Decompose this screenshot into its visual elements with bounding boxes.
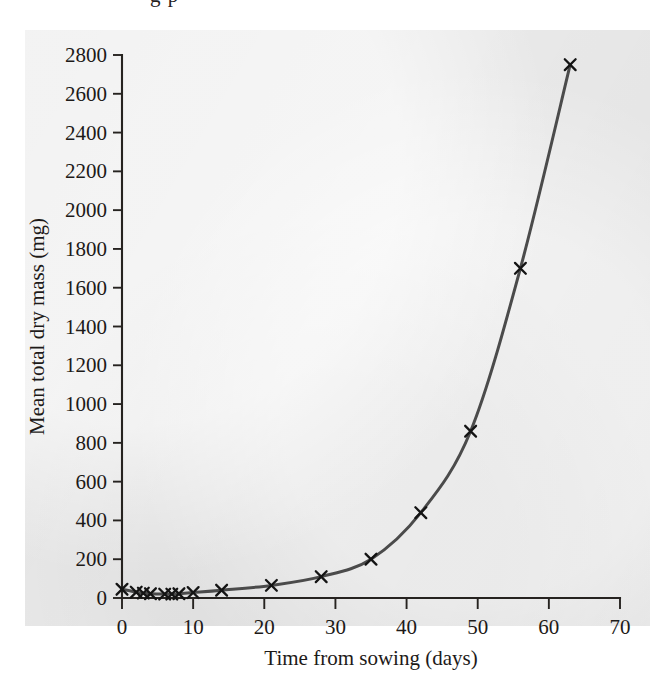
data-markers-group	[117, 59, 576, 599]
y-axis-tick-label: 2800	[65, 43, 107, 67]
y-axis-tick-label: 200	[76, 547, 108, 571]
chart-svg: 0200400600800100012001400160018002000220…	[0, 0, 650, 685]
data-curve	[122, 65, 570, 594]
y-axis-tick-label: 2400	[65, 121, 107, 145]
x-axis-tick-label: 30	[325, 615, 346, 639]
y-axis-tick-label: 1400	[65, 315, 107, 339]
x-axis-tick-label: 60	[538, 615, 559, 639]
axes-group	[113, 55, 620, 609]
x-axis-tick-label: 40	[396, 615, 417, 639]
x-axis-tick-label: 10	[183, 615, 204, 639]
y-axis-tick-label: 2600	[65, 82, 107, 106]
x-axis-tick-label: 0	[117, 615, 128, 639]
y-axis-title: Mean total dry mass (mg)	[25, 218, 49, 435]
x-axis-title: Time from sowing (days)	[264, 646, 477, 670]
y-axis-tick-label: 1600	[65, 276, 107, 300]
y-axis-tick-label: 1800	[65, 237, 107, 261]
data-point-marker	[415, 507, 426, 518]
x-axis-tick-label: 20	[254, 615, 275, 639]
y-axis-tick-label: 1200	[65, 353, 107, 377]
data-point-marker	[366, 554, 377, 565]
y-axis-tick-label: 2000	[65, 198, 107, 222]
y-axis-tick-label: 2200	[65, 159, 107, 183]
figure-container: g p 020040060080010001200140016001800200…	[0, 0, 650, 685]
y-axis-tick-label: 400	[76, 508, 108, 532]
y-axis-tick-label: 1000	[65, 392, 107, 416]
y-axis-tick-label: 600	[76, 470, 108, 494]
y-axis-tick-label: 0	[97, 586, 108, 610]
data-curve-group	[122, 65, 570, 594]
x-axis-tick-label: 70	[610, 615, 631, 639]
y-axis-tick-label: 800	[76, 431, 108, 455]
x-axis-tick-label: 50	[467, 615, 488, 639]
